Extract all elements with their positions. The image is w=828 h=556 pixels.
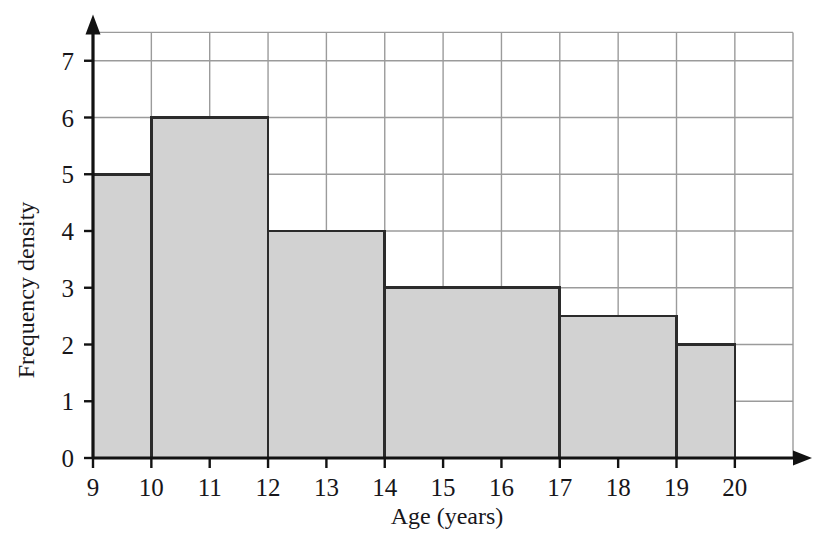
histogram-bar xyxy=(677,345,735,459)
histogram-figure: 91011121314151617181920 01234567 Age (ye… xyxy=(0,0,828,556)
y-axis-arrow-icon xyxy=(86,14,101,34)
x-tick-label: 16 xyxy=(489,474,514,501)
histogram-bar xyxy=(151,118,268,459)
x-tick-label: 14 xyxy=(372,474,398,501)
x-tick-label: 18 xyxy=(606,474,631,501)
histogram-svg: 91011121314151617181920 01234567 Age (ye… xyxy=(0,0,828,556)
y-tick-label: 3 xyxy=(62,275,75,302)
histogram-bar xyxy=(385,288,560,458)
x-tick-label: 12 xyxy=(256,474,281,501)
y-axis-title: Frequency density xyxy=(13,202,39,379)
x-tick-label: 9 xyxy=(87,474,100,501)
x-axis-arrow-icon xyxy=(793,451,812,466)
y-tick-label: 7 xyxy=(62,48,75,75)
x-tick-label: 13 xyxy=(314,474,339,501)
x-tick-label: 20 xyxy=(722,474,747,501)
x-tick-label: 17 xyxy=(547,474,572,501)
y-tick-label: 6 xyxy=(62,105,75,132)
x-tick-label: 11 xyxy=(198,474,222,501)
x-tick-label: 19 xyxy=(664,474,689,501)
y-tick-label: 1 xyxy=(62,388,75,415)
histogram-bar xyxy=(93,174,151,458)
x-tick-label: 10 xyxy=(139,474,164,501)
y-tick-label: 2 xyxy=(62,332,75,359)
x-axis-title: Age (years) xyxy=(391,503,504,529)
x-tick-label: 15 xyxy=(431,474,456,501)
histogram-bar xyxy=(268,231,385,458)
y-tick-label: 5 xyxy=(62,161,75,188)
y-tick-labels: 01234567 xyxy=(62,48,75,472)
y-tick-label: 4 xyxy=(62,218,75,245)
x-tick-labels: 91011121314151617181920 xyxy=(87,474,748,501)
y-tick-label: 0 xyxy=(62,445,75,472)
histogram-bar xyxy=(560,316,677,458)
